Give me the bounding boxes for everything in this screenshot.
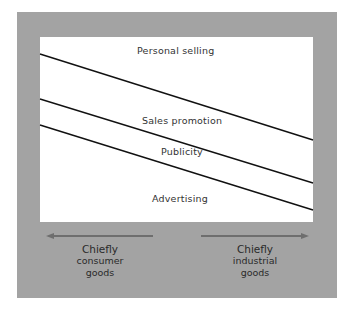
label-industrial-goods: Chiefly industrial goods [220, 243, 290, 279]
region-advertising: Advertising [152, 193, 208, 204]
divider-personal-selling [40, 54, 313, 140]
region-sales-promotion: Sales promotion [142, 115, 222, 126]
label-consumer-goods: Chiefly consumer goods [65, 243, 135, 279]
right-arrow-icon [201, 233, 309, 239]
region-personal-selling: Personal selling [137, 45, 214, 56]
left-arrow-icon [46, 233, 153, 239]
region-publicity: Publicity [161, 146, 203, 157]
divider-sales-promotion [40, 99, 313, 183]
